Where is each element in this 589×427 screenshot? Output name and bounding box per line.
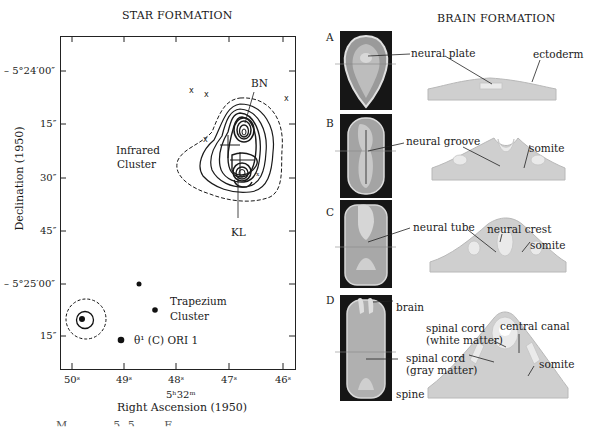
embryo-images bbox=[0, 0, 589, 427]
label-spinal-cord-gray-2: (gray matter) bbox=[406, 364, 477, 376]
label-spine: spine bbox=[396, 388, 424, 400]
caption-fragment: M... ... 5.5 ... F... ... ... ... ... ..… bbox=[56, 419, 321, 427]
label-central-canal: central canal bbox=[500, 320, 570, 332]
label-somite-c: somite bbox=[530, 239, 565, 251]
label-neural-plate: neural plate bbox=[411, 47, 476, 59]
label-spinal-cord-white-1: spinal cord bbox=[426, 322, 485, 334]
label-neural-crest: neural crest bbox=[487, 223, 551, 235]
label-spinal-cord-gray-1: spinal cord bbox=[406, 352, 465, 364]
label-neural-tube: neural tube bbox=[413, 221, 475, 233]
label-brain: brain bbox=[396, 301, 424, 313]
label-ectoderm: ectoderm bbox=[533, 48, 584, 60]
label-somite-b: somite bbox=[529, 142, 564, 154]
label-spinal-cord-white-2: (white matter) bbox=[426, 334, 503, 346]
label-somite-d: somite bbox=[539, 358, 574, 370]
label-neural-groove: neural groove bbox=[406, 135, 480, 147]
